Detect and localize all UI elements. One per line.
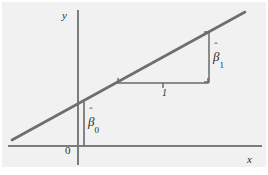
y-axis-label: y	[62, 10, 67, 21]
intercept-label: ˆβ0	[88, 112, 99, 132]
diagram-canvas	[2, 2, 266, 167]
run-bracket	[118, 78, 208, 83]
origin-label: 0	[65, 145, 71, 156]
hat-accent-intercept: ˆ	[89, 107, 92, 117]
x-axis-label: x	[247, 154, 252, 165]
plot-area: y x 0 1 ˆβ0 ˆβ1	[2, 2, 266, 167]
figure-root: y x 0 1 ˆβ0 ˆβ1	[0, 0, 268, 175]
subscript-slope: 1	[219, 60, 224, 70]
regression-line	[12, 12, 245, 140]
run-length-label: 1	[162, 88, 167, 98]
slope-bracket	[204, 32, 209, 82]
hat-accent-slope: ˆ	[214, 42, 217, 52]
slope-label: ˆβ1	[213, 47, 224, 67]
subscript-intercept: 0	[94, 125, 99, 135]
